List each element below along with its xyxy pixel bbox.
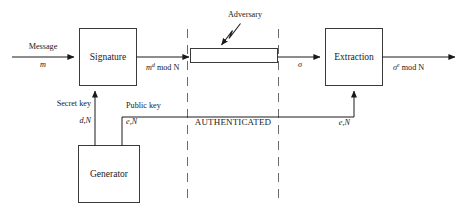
sigma-label: σ [298,60,303,69]
signed-message-label: md mod N [146,62,179,72]
verified-output-modulus: mod N [400,63,425,72]
channel-box [191,49,278,63]
public-key-label: Public key [126,101,162,110]
diagram-canvas: Signature Extraction Generator Message m… [0,0,464,212]
secret-key-variable-label: d,N [79,116,91,125]
message-label: Message [29,42,58,51]
signature-scheme-diagram: Signature Extraction Generator Message m… [0,0,464,212]
public-key-variable-label-right: e,N [339,118,351,127]
message-variable-label: m [40,60,46,69]
verified-output-label: σe mod N [393,62,424,72]
adversary-label: Adversary [228,10,263,19]
signed-message-modulus: mod N [155,63,180,72]
authenticated-label: AUTHENTICATED [195,117,272,127]
signature-box-label: Signature [90,52,126,62]
extraction-box-label: Extraction [334,52,374,62]
secret-key-label: Secret key [57,99,92,108]
generator-box-label: Generator [90,169,129,179]
public-key-variable-label: e,N [126,117,138,126]
adversary-bolt-icon [222,24,241,46]
